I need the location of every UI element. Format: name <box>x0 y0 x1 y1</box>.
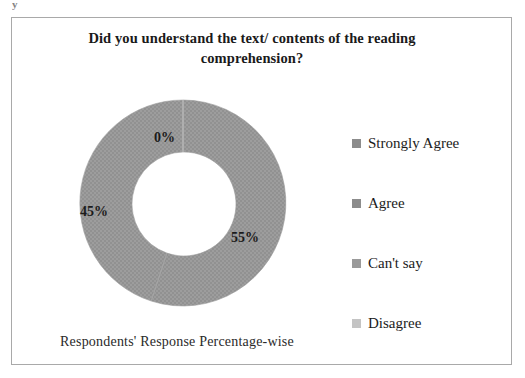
legend-swatch-disagree-icon <box>352 319 361 328</box>
plot-area: 0% 45% 55% Respondents' Response Percent… <box>12 18 513 366</box>
legend-label-agree: Agree <box>368 195 405 212</box>
legend-item-agree[interactable]: Agree <box>352 173 512 233</box>
scan-artifact: y <box>12 0 52 12</box>
legend-label-disagree: Disagree <box>368 315 421 332</box>
chart-legend: Strongly Agree Agree Can't say Disagree <box>352 113 512 353</box>
chart-frame: Did you understand the text/ contents of… <box>11 17 512 365</box>
legend-swatch-cant-say-icon <box>352 259 361 268</box>
legend-swatch-agree-icon <box>352 199 361 208</box>
legend-label-cant-say: Can't say <box>368 255 423 272</box>
slice-label-agree: 45% <box>80 204 108 220</box>
legend-item-disagree[interactable]: Disagree <box>352 293 512 353</box>
slice-label-cant-say: 0% <box>154 130 175 146</box>
axis-caption: Respondents' Response Percentage-wise <box>12 334 342 350</box>
legend-item-cant-say[interactable]: Can't say <box>352 233 512 293</box>
doughnut-chart <box>78 98 288 308</box>
legend-swatch-strongly-agree-icon <box>352 139 361 148</box>
legend-label-strongly-agree: Strongly Agree <box>368 135 459 152</box>
slice-label-strongly-agree: 55% <box>231 230 259 246</box>
legend-item-strongly-agree[interactable]: Strongly Agree <box>352 113 512 173</box>
doughnut-svg <box>78 98 288 308</box>
